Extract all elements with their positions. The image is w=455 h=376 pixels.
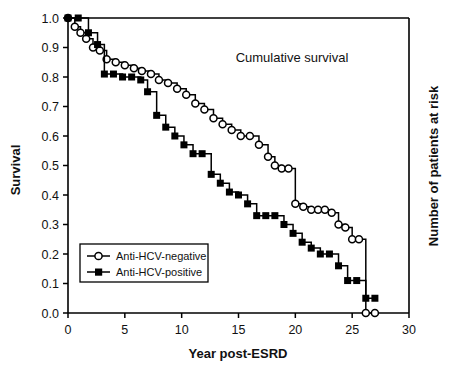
y-tick-label: 0.7: [42, 100, 59, 114]
data-point-filled-square: [344, 277, 351, 284]
data-point-filled-square: [290, 230, 297, 237]
survival-chart-figure: 0.00.10.20.30.40.50.60.70.80.91.0 051015…: [0, 0, 455, 376]
x-tick-label: 15: [232, 323, 246, 337]
data-point-open-circle: [112, 59, 119, 66]
chart-legend: Anti-HCV-negative Anti-HCV-positive: [80, 244, 208, 282]
data-point-open-circle: [278, 165, 285, 172]
open-circle-icon: [95, 252, 102, 259]
x-tick-label: 25: [345, 323, 359, 337]
data-point-filled-square: [137, 76, 144, 83]
data-point-filled-square: [153, 112, 160, 119]
data-point-filled-square: [101, 71, 108, 78]
data-point-filled-square: [326, 251, 333, 258]
x-tick-label: 20: [288, 323, 302, 337]
data-point-filled-square: [75, 15, 82, 22]
data-point-open-circle: [300, 203, 307, 210]
data-point-filled-square: [253, 212, 260, 219]
y-tick-label: 0.9: [42, 41, 59, 55]
data-point-open-circle: [308, 206, 315, 213]
data-point-filled-square: [317, 251, 324, 258]
data-point-filled-square: [217, 180, 224, 187]
data-point-open-circle: [183, 91, 190, 98]
data-point-open-circle: [355, 236, 362, 243]
data-point-open-circle: [335, 221, 342, 228]
data-point-open-circle: [271, 162, 278, 169]
legend-label-positive: Anti-HCV-positive: [116, 266, 202, 278]
data-point-open-circle: [165, 79, 172, 86]
y-tick-label: 0.1: [42, 277, 59, 291]
y-tick-label: 0.0: [42, 307, 59, 321]
data-point-open-circle: [246, 133, 253, 140]
data-point-filled-square: [371, 295, 378, 302]
filled-square-icon: [95, 269, 102, 276]
y-tick-label: 1.0: [42, 12, 59, 26]
data-point-filled-square: [226, 189, 233, 196]
y-tick-label: 0.3: [42, 218, 59, 232]
data-point-filled-square: [244, 200, 251, 207]
data-point-open-circle: [201, 106, 208, 113]
legend-label-negative: Anti-HCV-negative: [116, 250, 207, 262]
data-point-open-circle: [315, 206, 322, 213]
x-tick-label: 5: [121, 323, 128, 337]
data-point-filled-square: [335, 262, 342, 269]
data-point-open-circle: [285, 165, 292, 172]
data-point-filled-square: [308, 245, 315, 252]
y-tick-label: 0.5: [42, 159, 59, 173]
data-point-filled-square: [144, 88, 151, 95]
y-tick-label: 0.6: [42, 130, 59, 144]
data-point-filled-square: [110, 71, 117, 78]
data-point-open-circle: [219, 121, 226, 128]
data-point-open-circle: [121, 62, 128, 69]
data-point-filled-square: [262, 212, 269, 219]
data-point-filled-square: [171, 133, 178, 140]
data-point-filled-square: [353, 277, 360, 284]
data-point-filled-square: [119, 74, 126, 81]
x-tick-label: 30: [402, 323, 416, 337]
data-point-filled-square: [362, 295, 369, 302]
data-point-open-circle: [192, 100, 199, 107]
x-axis-label: Year post-ESRD: [189, 346, 288, 361]
data-point-filled-square: [208, 171, 215, 178]
data-point-open-circle: [155, 76, 162, 83]
y-tick-label: 0.4: [42, 189, 59, 203]
x-tick-label: 10: [175, 323, 189, 337]
data-point-filled-square: [162, 124, 169, 131]
data-point-open-circle: [228, 127, 235, 134]
data-point-filled-square: [85, 29, 92, 36]
data-point-open-circle: [362, 310, 369, 317]
data-point-open-circle: [210, 115, 217, 122]
data-point-filled-square: [65, 15, 72, 22]
data-point-open-circle: [130, 65, 137, 72]
data-point-open-circle: [138, 68, 145, 75]
data-point-filled-square: [199, 150, 206, 157]
data-point-filled-square: [128, 74, 135, 81]
data-point-open-circle: [342, 224, 349, 231]
data-point-filled-square: [235, 192, 242, 199]
data-point-filled-square: [190, 150, 197, 157]
data-point-filled-square: [280, 221, 287, 228]
data-point-open-circle: [174, 85, 181, 92]
y-tick-label: 0.2: [42, 248, 59, 262]
data-point-open-circle: [371, 310, 378, 317]
y-axis-label: Survival: [8, 145, 23, 196]
data-point-filled-square: [94, 41, 101, 48]
data-point-open-circle: [349, 236, 356, 243]
x-tick-label: 0: [65, 323, 72, 337]
data-point-filled-square: [271, 212, 278, 219]
data-point-open-circle: [71, 23, 78, 30]
data-point-open-circle: [237, 133, 244, 140]
data-point-open-circle: [77, 29, 84, 36]
data-point-open-circle: [292, 200, 299, 207]
data-point-open-circle: [328, 209, 335, 216]
y-tick-label: 0.8: [42, 71, 59, 85]
kaplan-meier-survival-chart: 0.00.10.20.30.40.50.60.70.80.91.0 051015…: [0, 0, 455, 376]
chart-title: Cumulative survival: [236, 50, 349, 65]
data-point-filled-square: [299, 239, 306, 246]
right-axis-label: Number of patients at risk: [426, 85, 441, 246]
data-point-open-circle: [321, 206, 328, 213]
data-point-open-circle: [255, 141, 262, 148]
data-point-filled-square: [180, 141, 187, 148]
data-point-open-circle: [147, 71, 154, 78]
data-point-open-circle: [265, 153, 272, 160]
